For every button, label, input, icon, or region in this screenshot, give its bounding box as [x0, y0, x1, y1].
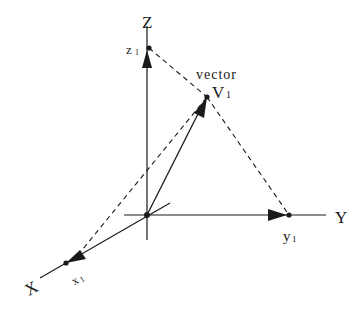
vector-v1-arrowhead: [194, 97, 207, 118]
z1-label: z 1: [126, 42, 139, 57]
y-component-arrow: [268, 209, 287, 221]
z1-label-main: z: [126, 42, 132, 57]
z-axis-label: Z: [142, 13, 152, 32]
x-axis-label: X: [21, 277, 41, 300]
x-axis: [40, 203, 170, 278]
z1-label-sub: 1: [135, 48, 139, 57]
v1-label: V 1: [212, 83, 231, 102]
y1-point: [286, 212, 291, 217]
x1-point: [63, 260, 68, 265]
vector-v1-shaft: [147, 104, 203, 215]
v1-label-main: V: [212, 83, 225, 102]
y1-label: y 1: [283, 228, 297, 244]
dashed-v1-to-y1: [207, 97, 289, 215]
x1-label: x 1: [69, 270, 86, 288]
diagram-svg: Z Y X z 1 y 1 x 1 vector V 1: [0, 0, 360, 311]
origin-point: [144, 212, 150, 218]
y1-label-sub: 1: [292, 234, 297, 244]
v1-label-sub: 1: [226, 89, 231, 100]
y1-label-main: y: [283, 228, 291, 244]
x-component-arrow: [66, 250, 86, 263]
vector-diagram: Z Y X z 1 y 1 x 1 vector V 1: [0, 0, 360, 311]
z1-point: [146, 45, 151, 50]
vector-caption: vector: [196, 67, 237, 82]
dashed-x1-to-v1: [78, 97, 207, 255]
z-component-arrow: [142, 50, 152, 68]
v1-point: [204, 94, 209, 99]
y-axis-label: Y: [335, 208, 347, 227]
